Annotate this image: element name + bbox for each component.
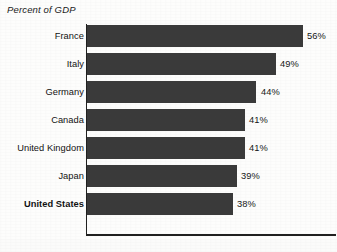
bar-category-label: Japan bbox=[58, 171, 84, 181]
bar-chart-figure: Percent of GDP France 56% Italy 49% Germ… bbox=[0, 0, 337, 252]
bar-value-label: 56% bbox=[307, 31, 326, 41]
bar-rect bbox=[87, 53, 276, 75]
bar-row: Germany 44% bbox=[0, 78, 337, 106]
bar-category-label: United Kingdom bbox=[17, 143, 84, 153]
bar-row: United States 38% bbox=[0, 190, 337, 218]
bar-row: Italy 49% bbox=[0, 50, 337, 78]
bar-rect bbox=[87, 109, 245, 131]
plot-area: France 56% Italy 49% Germany 44% Canada … bbox=[0, 22, 337, 237]
bar-row: Japan 39% bbox=[0, 162, 337, 190]
bar-rect bbox=[87, 137, 245, 159]
bar-rect bbox=[87, 165, 237, 187]
bottom-margin bbox=[0, 239, 337, 252]
bar-category-label: Canada bbox=[51, 115, 84, 125]
bar-category-label: Italy bbox=[67, 59, 84, 69]
bar-rect bbox=[87, 25, 303, 47]
bar-category-label: France bbox=[55, 31, 84, 41]
bar-rect bbox=[87, 81, 256, 103]
bar-row: France 56% bbox=[0, 22, 337, 50]
x-axis-line bbox=[86, 234, 336, 236]
bar-rect bbox=[87, 193, 233, 215]
bar-value-label: 44% bbox=[261, 87, 280, 97]
bar-value-label: 41% bbox=[249, 115, 268, 125]
bar-value-label: 49% bbox=[280, 59, 299, 69]
bar-category-label: United States bbox=[24, 199, 84, 209]
bar-value-label: 41% bbox=[249, 143, 268, 153]
bar-value-label: 38% bbox=[237, 199, 256, 209]
chart-title: Percent of GDP bbox=[7, 4, 76, 15]
bar-value-label: 39% bbox=[241, 171, 260, 181]
bar-row: Canada 41% bbox=[0, 106, 337, 134]
bar-category-label: Germany bbox=[45, 87, 84, 97]
bar-row: United Kingdom 41% bbox=[0, 134, 337, 162]
